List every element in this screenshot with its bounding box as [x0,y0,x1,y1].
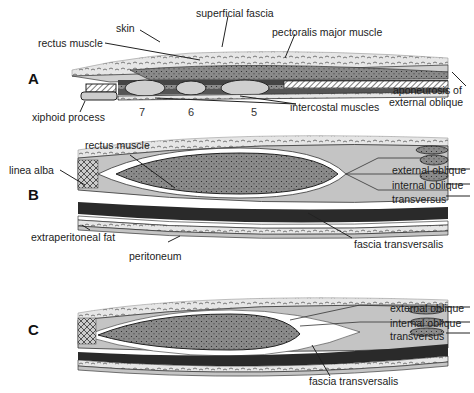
label-peritoneum: peritoneum [129,250,182,262]
label-superficial-fascia: superficial fascia [196,7,274,19]
label-rectus-muscle-a: rectus muscle [38,37,103,49]
label-intercostal-muscles: intercostal muscles [290,101,379,113]
rib-number-5: 5 [251,106,257,118]
label-xiphoid-process: xiphoid process [32,111,105,123]
label-internal-oblique-b: internal oblique [392,179,463,191]
label-skin: skin [116,22,135,34]
label-aponeurosis-line1: aponeurosis of [393,84,462,96]
label-linea-alba: linea alba [9,164,54,176]
panel-b-letter: B [28,186,39,203]
label-internal-oblique-c: internal oblique [390,317,461,329]
label-fascia-transversalis-b: fascia transversalis [354,238,443,250]
label-transversus-b: transversus [392,193,446,205]
label-extraperitoneal-fat: extraperitoneal fat [31,231,115,243]
rib-number-7: 7 [139,106,145,118]
panel-a-illustration [72,52,448,100]
rib-number-6: 6 [188,106,194,118]
label-pectoralis-major: pectoralis major muscle [272,26,382,38]
label-fascia-transversalis-c: fascia transversalis [309,375,398,387]
label-external-oblique-b: external oblique [392,164,466,176]
label-aponeurosis-line2: external oblique [389,96,463,108]
label-rectus-muscle-b: rectus muscle [85,139,150,151]
label-external-oblique-c: external oblique [390,302,464,314]
panel-c-letter: C [28,321,39,338]
label-transversus-c: transversus [390,330,444,342]
panel-a-letter: A [28,70,39,87]
